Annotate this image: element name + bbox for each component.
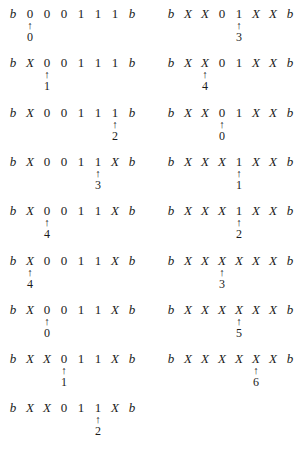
tape-cell: X — [198, 302, 212, 318]
tape-cell: b — [125, 154, 139, 170]
state-label: 0 — [40, 327, 54, 340]
tape-cell: b — [164, 154, 178, 170]
read-head-marker: ↑3 — [91, 168, 105, 192]
tape-cell: b — [283, 154, 297, 170]
state-label: 4 — [198, 80, 212, 93]
state-label: 6 — [249, 376, 263, 389]
tape-cell: 0 — [57, 253, 71, 269]
tape-cell: 1 — [74, 6, 88, 22]
tape-cell: b — [6, 55, 20, 71]
tape-cell: X — [266, 6, 280, 22]
tape-cell: X — [249, 253, 263, 269]
tape-cell: 0 — [40, 6, 54, 22]
tape-cell: b — [125, 105, 139, 121]
read-head-marker: ↑1 — [232, 168, 246, 192]
state-label: 3 — [91, 179, 105, 192]
read-head-marker: ↑1 — [57, 365, 71, 389]
up-arrow-icon: ↑ — [23, 267, 37, 278]
tape-cell: 0 — [57, 6, 71, 22]
tape-cell: 0 — [215, 6, 229, 22]
tape-cell: 1 — [108, 55, 122, 71]
state-label: 0 — [23, 31, 37, 44]
tape-cell: 1 — [91, 302, 105, 318]
tape-cell: X — [198, 6, 212, 22]
tape-cell: X — [108, 351, 122, 367]
tape-cell: 1 — [91, 55, 105, 71]
tape-cell: X — [266, 203, 280, 219]
tape-cell: b — [164, 55, 178, 71]
state-label: 4 — [23, 278, 37, 291]
tape-configuration: bXXXXXXb↑5 — [164, 302, 301, 348]
tape-cell: 1 — [74, 154, 88, 170]
read-head-marker: ↑2 — [108, 119, 122, 143]
tape-cell: 0 — [57, 400, 71, 416]
tape-cell: b — [6, 302, 20, 318]
tape-cell: X — [108, 302, 122, 318]
tape-cell: X — [198, 105, 212, 121]
tape-configuration: bX0011Xb↑0 — [6, 302, 146, 348]
state-label: 0 — [215, 130, 229, 143]
state-label: 5 — [232, 327, 246, 340]
read-head-marker: ↑4 — [198, 69, 212, 93]
tape-cell: X — [181, 105, 195, 121]
tape-cell: X — [198, 203, 212, 219]
up-arrow-icon: ↑ — [215, 119, 229, 130]
read-head-marker: ↑3 — [232, 20, 246, 44]
tape-cell: 1 — [74, 203, 88, 219]
tape-cell: X — [181, 203, 195, 219]
read-head-marker: ↑0 — [23, 20, 37, 44]
tape-cell: X — [40, 351, 54, 367]
tape-cell: X — [23, 203, 37, 219]
read-head-marker: ↑4 — [23, 267, 37, 291]
tape-cell: 1 — [91, 105, 105, 121]
read-head-marker: ↑0 — [215, 119, 229, 143]
tape-cell: 1 — [74, 400, 88, 416]
tape-cell: b — [6, 351, 20, 367]
tape-cell: X — [249, 154, 263, 170]
tape-cell: X — [181, 6, 195, 22]
tape-cell: b — [283, 351, 297, 367]
tape-cell: b — [164, 302, 178, 318]
tape-configuration: bXXXXXXb↑6 — [164, 351, 301, 397]
tape-cell: X — [181, 55, 195, 71]
tape-cell: b — [283, 55, 297, 71]
state-label: 3 — [232, 31, 246, 44]
tape-configuration: bXX011Xb↑1 — [6, 351, 146, 397]
tape-cell: X — [249, 302, 263, 318]
state-label: 4 — [40, 228, 54, 241]
tape-cell: b — [6, 154, 20, 170]
state-label: 1 — [40, 80, 54, 93]
tape-cell: b — [125, 253, 139, 269]
tape-cell: X — [266, 302, 280, 318]
tape-cell: b — [125, 55, 139, 71]
read-head-marker: ↑5 — [232, 316, 246, 340]
read-head-marker: ↑3 — [215, 267, 229, 291]
tape-cell: 1 — [91, 253, 105, 269]
tape-cell: b — [164, 351, 178, 367]
tape-cell: X — [181, 302, 195, 318]
tape-cell: X — [108, 154, 122, 170]
tape-cell: X — [232, 351, 246, 367]
read-head-marker: ↑4 — [40, 217, 54, 241]
tape-cell: b — [125, 6, 139, 22]
tape-cell: 1 — [232, 55, 246, 71]
tape-cell: 1 — [91, 351, 105, 367]
tape-configuration: bXX01XXb↑3 — [164, 6, 301, 52]
tape-cell: X — [23, 154, 37, 170]
state-label: 2 — [108, 130, 122, 143]
tape-cell: b — [6, 253, 20, 269]
tape-cell: b — [125, 302, 139, 318]
tape-cell: b — [6, 105, 20, 121]
read-head-marker: ↑1 — [40, 69, 54, 93]
tape-cell: X — [23, 302, 37, 318]
tape-cell: X — [215, 351, 229, 367]
read-head-marker: ↑2 — [232, 217, 246, 241]
tape-cell: X — [266, 55, 280, 71]
read-head-marker: ↑0 — [40, 316, 54, 340]
tape-cell: X — [232, 253, 246, 269]
tape-cell: X — [108, 203, 122, 219]
tape-cell: 1 — [232, 105, 246, 121]
tape-configuration: bX0011Xb↑4 — [6, 203, 146, 249]
tape-cell: b — [164, 253, 178, 269]
state-label: 1 — [232, 179, 246, 192]
